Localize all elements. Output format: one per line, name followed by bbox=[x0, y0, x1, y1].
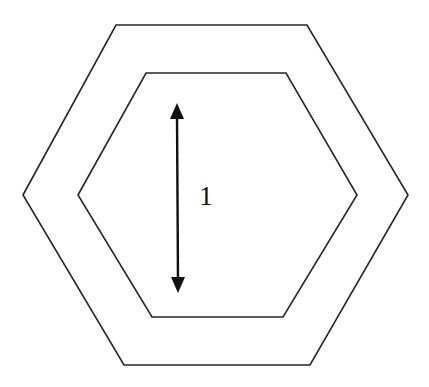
geometry-figure: 1 bbox=[0, 0, 429, 387]
dimension-arrow-shaft bbox=[177, 115, 178, 281]
dimension-label: 1 bbox=[199, 181, 213, 211]
hexagon-diagram-canvas: 1 bbox=[0, 0, 429, 387]
figure-background bbox=[0, 0, 429, 387]
